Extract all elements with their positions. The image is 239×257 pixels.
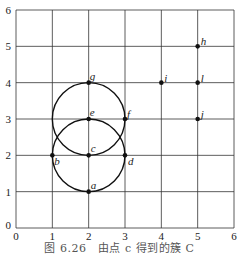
point-h	[195, 44, 200, 49]
y-tick-label: 4	[6, 77, 12, 89]
data-points: abcdefghijl	[50, 35, 207, 194]
point-j	[195, 117, 200, 122]
point-label-c: c	[91, 142, 96, 154]
cluster-diagram: 01234560123456 abcdefghijl	[0, 0, 239, 257]
figure-caption: 图 6.26 由点 c 得到的簇 C	[0, 239, 239, 255]
point-label-b: b	[54, 155, 60, 167]
point-i	[159, 80, 164, 85]
point-label-i: i	[164, 72, 167, 84]
point-label-l: l	[201, 72, 204, 84]
y-tick-label: 5	[6, 40, 12, 52]
point-label-f: f	[127, 108, 132, 120]
point-d	[123, 153, 128, 158]
point-label-e: e	[90, 106, 95, 118]
point-label-h: h	[201, 35, 207, 47]
point-label-d: d	[128, 155, 134, 167]
y-tick-label: 6	[6, 4, 12, 16]
y-tick-label: 1	[6, 186, 12, 198]
y-tick-label: 3	[6, 113, 12, 125]
point-label-g: g	[90, 70, 96, 82]
point-label-a: a	[91, 179, 97, 191]
y-tick-label: 0	[6, 219, 12, 231]
point-l	[195, 80, 200, 85]
y-tick-label: 2	[6, 149, 12, 161]
